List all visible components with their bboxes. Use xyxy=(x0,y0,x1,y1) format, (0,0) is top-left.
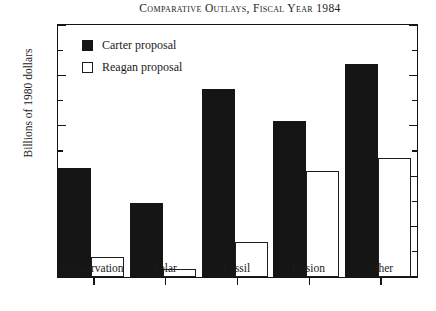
y-tick-left-1.2 xyxy=(58,75,66,76)
y-tick-right-1.2 xyxy=(409,75,417,76)
bar-other-reagan xyxy=(378,158,411,277)
x-tick-fossil xyxy=(237,277,238,285)
x-tick-label-solar: Solar xyxy=(153,262,177,274)
chart-figure: Comparative Outlays, Fiscal Year 1984 Bi… xyxy=(0,0,436,311)
chart-title: Comparative Outlays, Fiscal Year 1984 xyxy=(56,2,424,14)
bar-other-carter xyxy=(345,64,378,277)
y-tick-left-1.5 xyxy=(58,24,66,25)
bar-fossil-carter xyxy=(202,89,235,277)
y-tick-right-0.45 xyxy=(412,201,417,202)
x-tick-label-fossil: Fossil xyxy=(223,262,251,274)
y-axis-title: Billions of 1980 dollars xyxy=(22,28,34,178)
chart-legend: Carter proposalReagan proposal xyxy=(82,34,182,78)
x-tick-label-other: Other xyxy=(367,262,393,274)
y-tick-right-1.5 xyxy=(409,24,417,25)
bar-fission-carter xyxy=(273,121,306,277)
x-tick-label-fission: Fission xyxy=(292,262,325,274)
legend-item-carter: Carter proposal xyxy=(82,34,182,56)
bar-conservation-carter xyxy=(58,168,91,277)
legend-swatch-carter-icon xyxy=(82,40,93,51)
y-tick-right-0.15 xyxy=(412,251,417,252)
x-tick-fission xyxy=(309,277,310,285)
y-tick-right-1.35 xyxy=(412,50,417,51)
y-tick-right-1.05 xyxy=(412,100,417,101)
legend-item-reagan: Reagan proposal xyxy=(82,56,182,78)
x-tick-conservation xyxy=(93,277,94,285)
x-tick-solar xyxy=(165,277,166,285)
legend-label-reagan: Reagan proposal xyxy=(102,60,182,75)
y-tick-right-0.75 xyxy=(412,150,417,151)
y-tick-left-0.9 xyxy=(58,125,66,126)
y-tick-left-1.35 xyxy=(58,50,63,51)
x-tick-other xyxy=(380,277,381,285)
y-tick-right-0.9 xyxy=(409,125,417,126)
legend-swatch-reagan-icon xyxy=(82,62,93,73)
legend-label-carter: Carter proposal xyxy=(102,38,176,53)
y-tick-left-0.75 xyxy=(58,150,63,151)
x-tick-label-conservation: Conservation xyxy=(62,262,123,274)
y-tick-left-1.05 xyxy=(58,100,63,101)
